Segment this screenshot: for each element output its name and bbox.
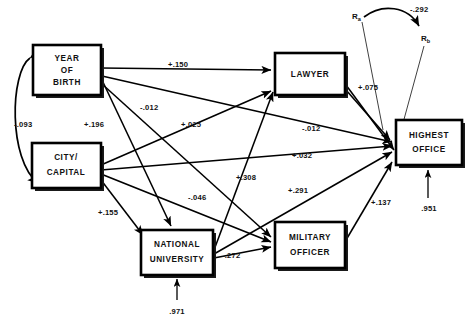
residual-term-rb-subscript: b xyxy=(427,38,431,44)
coef-label-lawyer-to-highest-office: +.075 xyxy=(358,83,379,92)
coef-label-city-to-military-officer: -.046 xyxy=(188,193,206,202)
residual-stem-ra xyxy=(362,22,383,130)
residual-term-rb: Rb xyxy=(421,34,431,44)
path-arrow-yob-to-national-university xyxy=(102,80,171,226)
node-label-year-of-birth-line2: OF xyxy=(61,66,73,75)
node-label-year-of-birth-line3: BIRTH xyxy=(53,78,81,87)
node-label-military-officer-line1: MILITARY xyxy=(289,233,331,242)
coef-label-correlation-ra-rb: -.292 xyxy=(410,5,428,14)
node-label-national-university-line2: UNIVERSITY xyxy=(150,255,205,264)
path-diagram-figure: YEAR OF BIRTH CITY/ CAPITAL NATIONAL UNI… xyxy=(0,0,471,323)
coef-label-natuniv-to-highest-office: +.291 xyxy=(288,186,309,195)
residual-term-ra-subscript: a xyxy=(358,16,362,22)
coef-label-military-officer-to-highest-office: +.137 xyxy=(371,198,391,207)
coef-label-city-to-highest-office: +.032 xyxy=(292,151,312,160)
node-year-of-birth: YEAR OF BIRTH xyxy=(33,45,104,98)
node-highest-office: HIGHEST OFFICE xyxy=(396,120,465,168)
coef-label-city-to-national-university: +.155 xyxy=(98,208,119,217)
node-lawyer: LAWYER xyxy=(275,53,348,98)
node-label-highest-office-line1: HIGHEST xyxy=(409,131,449,140)
coef-label-yob-to-military-officer: +.025 xyxy=(181,120,202,129)
node-military-officer: MILITARY OFFICER xyxy=(275,222,348,271)
coef-label-lawyer-to-military-officer: -.012 xyxy=(302,124,320,133)
node-label-city-capital-line2: CAPITAL xyxy=(47,168,86,177)
residual-term-ra: Ra xyxy=(352,12,362,22)
path-arrow-city-to-highest-office xyxy=(101,146,392,170)
coef-label-correlation-yob-city: -.093 xyxy=(14,120,32,129)
coef-label-yob-to-lawyer: +.150 xyxy=(168,60,188,69)
node-national-university: NATIONAL UNIVERSITY xyxy=(141,230,216,278)
coef-label-residual-highest-office: .951 xyxy=(421,204,437,213)
coef-label-residual-national-university: .971 xyxy=(169,307,185,316)
path-arrow-national-university-to-lawyer xyxy=(214,92,273,250)
node-label-military-officer-line2: OFFICER xyxy=(290,248,330,257)
diagram-canvas: YEAR OF BIRTH CITY/ CAPITAL NATIONAL UNI… xyxy=(0,0,471,323)
coef-label-natuniv-to-military-officer: -.272 xyxy=(222,251,240,260)
node-label-lawyer: LAWYER xyxy=(291,70,329,79)
coef-label-yob-to-highest-office: -.012 xyxy=(140,103,158,112)
node-city-capital: CITY/ CAPITAL xyxy=(32,143,104,191)
svg-text:Rb: Rb xyxy=(421,34,431,44)
node-label-highest-office-line2: OFFICE xyxy=(412,145,445,154)
coef-label-yob-to-national-university: +.196 xyxy=(84,120,104,129)
coef-label-city-to-lawyer: +.308 xyxy=(236,173,256,182)
node-label-year-of-birth-line1: YEAR xyxy=(55,54,80,63)
node-label-city-capital-line1: CITY/ xyxy=(54,153,78,162)
svg-text:Ra: Ra xyxy=(352,12,362,22)
node-label-national-university-line1: NATIONAL xyxy=(154,240,200,249)
